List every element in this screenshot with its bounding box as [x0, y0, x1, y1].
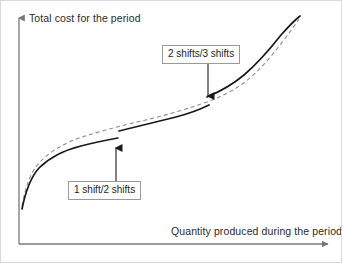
chart-canvas [1, 1, 342, 263]
annotation-box-1-shift-2-shifts: 1 shift/2 shifts [68, 181, 141, 200]
chart-figure: Total cost for the period Quantity produ… [0, 0, 342, 263]
annotation-box-2-shifts-3-shifts: 2 shifts/3 shifts [162, 45, 240, 64]
y-axis-label: Total cost for the period [29, 12, 141, 24]
x-axis-label: Quantity produced during the period [171, 225, 342, 237]
cost-curve-segment-2-shifts [119, 105, 209, 131]
reference-cost-curve-dashed [22, 19, 299, 206]
